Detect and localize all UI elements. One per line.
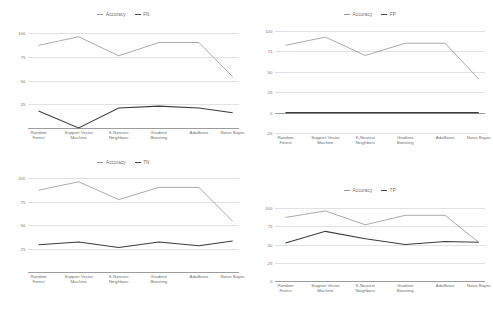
xtick-gradient-boost: Gradient Boosting [136,274,182,284]
xtick-knn: K-Nearest Neighbors [96,130,142,140]
legend-swatch-accuracy-icon [344,14,350,15]
xtick-svm: Support Vector Machine [56,130,102,140]
ytick-100: 100 [18,31,25,36]
ytick-50: 50 [268,242,273,247]
legend-swatch-fp-icon [381,14,387,16]
legend-entry-accuracy[interactable]: Accuracy [97,160,125,165]
ytick-25: 25 [21,246,26,251]
legend-entry-accuracy[interactable]: Accuracy [344,188,372,193]
legend-swatch-fn-icon [135,14,141,16]
line-fn [39,106,233,128]
ytick-75: 75 [268,49,273,54]
xtick-svm: Support Vector Machine [56,274,102,284]
line-accuracy [39,182,233,221]
ytick-0: 0 [270,110,272,115]
panel-accuracy-tn: Accuracy TN 100 75 50 25 Random Forest [0,155,247,310]
legend-swatch-tn-icon [135,162,141,164]
plot-area-tp: 100 75 50 25 0 Random Forest Support Vec… [275,208,485,281]
ytick-25: 25 [268,260,273,265]
legend-entry-fn[interactable]: FN [135,12,150,17]
legend-swatch-accuracy-icon [97,162,103,163]
legend-label-accuracy: Accuracy [353,12,373,17]
ytick-75: 75 [21,199,26,204]
legend-label-tp: TP [390,188,396,193]
ytick-25: 25 [268,90,273,95]
legend-swatch-accuracy-icon [97,14,103,15]
legend-label-fp: FP [390,12,396,17]
legend-fp: Accuracy FP [247,12,493,17]
panel-accuracy-tp: Accuracy TP 100 75 50 25 0 Random Forest [247,155,493,310]
legend-swatch-accuracy-icon [344,190,350,191]
legend-entry-fp[interactable]: FP [381,12,396,17]
legend-label-accuracy: Accuracy [106,12,126,17]
ytick-25: 25 [21,102,26,107]
plot-area-fp: 100 75 50 25 0 -25 Random Forest Support… [275,31,485,133]
xtick-knn: K-Nearest Neighbors [96,274,142,284]
xtick-naive-bayes: Naive Bayes [456,283,493,288]
ytick-50: 50 [268,69,273,74]
series-lines-fn [28,33,239,128]
panel-accuracy-fn: Accuracy FN 100 75 50 25 Random Forest [0,0,247,155]
plot-area-tn: 100 75 50 25 Random Forest Support Vecto… [28,178,239,272]
line-accuracy [39,37,233,77]
xtick-gradient-boost: Gradient Boosting [136,130,182,140]
x-axis-line [28,128,239,129]
line-tn [39,241,233,248]
line-tp [286,231,479,244]
ytick-50: 50 [21,223,26,228]
legend-label-tn: TN [143,160,149,165]
ytick-100: 100 [18,176,25,181]
ytick-50: 50 [21,78,26,83]
legend-label-accuracy: Accuracy [106,160,126,165]
x-axis-line [28,272,239,273]
legend-tp: Accuracy TP [247,188,493,193]
ytick-100: 100 [265,206,272,211]
ytick-75: 75 [268,224,273,229]
legend-fn: Accuracy FN [0,12,247,17]
legend-entry-accuracy[interactable]: Accuracy [344,12,372,17]
xtick-naive-bayes: Naive Bayes [456,135,493,140]
legend-label-fn: FN [143,12,149,17]
legend-entry-accuracy[interactable]: Accuracy [97,12,125,17]
x-axis-line [275,281,485,282]
legend-tn: Accuracy TN [0,160,247,165]
plot-area-fn: 100 75 50 25 Random Forest Support Vecto… [28,33,239,128]
legend-entry-tn[interactable]: TN [135,160,150,165]
line-accuracy [286,37,479,79]
panel-accuracy-fp: Accuracy FP 100 75 50 25 0 -25 Ra [247,0,493,155]
ytick-100: 100 [265,29,272,34]
line-accuracy [286,211,479,242]
series-lines-tn [28,178,239,272]
legend-swatch-tp-icon [381,190,387,192]
legend-label-accuracy: Accuracy [353,188,373,193]
gridline-neg25 [275,133,485,134]
series-lines-fp [275,31,485,133]
series-lines-tp [275,208,485,281]
ytick-75: 75 [21,54,26,59]
legend-entry-tp[interactable]: TP [381,188,396,193]
chart-grid: Accuracy FN 100 75 50 25 Random Forest [0,0,493,310]
